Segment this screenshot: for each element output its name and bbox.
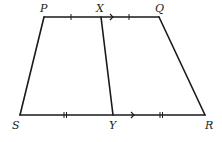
label-p: P bbox=[39, 2, 48, 15]
segment-ps bbox=[20, 17, 44, 115]
segment-xy bbox=[101, 17, 113, 115]
trapezoid-diagram: P X Q S Y R bbox=[0, 0, 222, 142]
label-y: Y bbox=[109, 119, 118, 132]
label-s: S bbox=[12, 119, 20, 132]
label-q: Q bbox=[155, 2, 164, 15]
label-r: R bbox=[204, 119, 213, 132]
segment-qr bbox=[159, 17, 205, 115]
label-x: X bbox=[95, 2, 105, 15]
